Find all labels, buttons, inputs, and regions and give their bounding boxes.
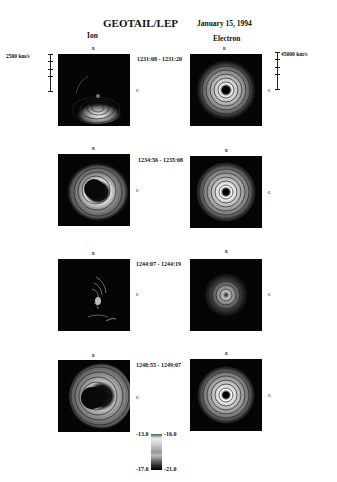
electron-axis-b-label: B <box>225 249 228 254</box>
row2-time-label: 1234:56 - 1235:08 <box>138 157 183 163</box>
colorbar-electron-max: -16.0 <box>164 431 177 437</box>
ion-axis-b-label: B <box>92 251 95 256</box>
electron-axis-b-label: B <box>225 148 228 153</box>
colorbar-electron-min: -21.0 <box>164 466 177 472</box>
electron-axis-c-label: C <box>268 292 271 297</box>
row1-time-label: 1231:08 - 1231:20 <box>137 56 182 62</box>
ion-distribution-plot-2 <box>58 154 130 226</box>
electron-axis-c-label: C <box>268 393 271 398</box>
ion-distribution-plot-3 <box>58 259 130 331</box>
electron-distribution-plot-2 <box>190 156 262 228</box>
colorbar-ion-min: -17.0 <box>136 466 149 472</box>
electron-distribution-plot-3 <box>190 259 262 331</box>
ion-distribution-plot-1 <box>58 54 130 126</box>
figure-date: January 15, 1994 <box>197 19 252 28</box>
ion-axis-b-label: B <box>92 146 95 151</box>
ion-scale-ticks <box>48 54 53 92</box>
electron-axis-b-label: B <box>223 46 226 51</box>
ion-axis-b-label: B <box>92 353 95 358</box>
colorbar-ion-max: -13.0 <box>136 431 149 437</box>
electron-column-label: Electron <box>213 34 240 43</box>
ion-axis-c-label: C <box>136 188 139 193</box>
ion-axis-c-label: C <box>136 395 139 400</box>
electron-axis-b-label: B <box>225 351 228 356</box>
electron-axis-c-label: C <box>268 88 271 93</box>
electron-distribution-plot-4 <box>190 359 262 431</box>
electron-scale-label: 45000 km/s <box>281 51 307 57</box>
ion-distribution-plot-4 <box>58 360 130 432</box>
electron-axis-c-label: C <box>268 190 271 195</box>
ion-axis-c-label: C <box>136 88 139 93</box>
electron-distribution-plot-1 <box>190 54 262 126</box>
ion-axis-b-label: B <box>92 46 95 51</box>
figure-title: GEOTAIL/LEP <box>103 17 178 29</box>
ion-axis-c-label: C <box>136 292 139 297</box>
row3-time-label: 1244:07 - 1244:19 <box>136 261 181 267</box>
ion-column-label: Ion <box>87 31 98 40</box>
ion-scale-label: 2500 km/s <box>6 53 30 59</box>
colorbar <box>151 434 162 470</box>
row4-time-label: 1248:55 - 1249:07 <box>136 362 181 368</box>
electron-scale-ticks <box>275 52 280 90</box>
